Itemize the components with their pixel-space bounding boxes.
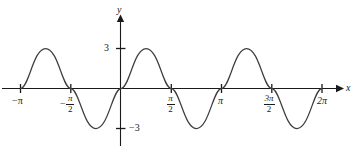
fraction-stack: π 2: [167, 94, 175, 114]
fraction-numerator: π: [167, 94, 174, 104]
fraction-stack: 3π 2: [264, 94, 275, 114]
fraction-numerator: π: [67, 94, 74, 104]
x-tick-label-pi: π: [218, 96, 223, 106]
sine-curve-plot: [0, 0, 354, 151]
fraction-stack: π 2: [66, 94, 74, 114]
fraction-denominator: 2: [167, 105, 174, 115]
y-tick-label-minus-3: −3: [129, 123, 140, 133]
x-tick-label-minus-pi-text: −π: [12, 95, 23, 106]
fraction-numerator: 3π: [264, 94, 275, 104]
y-axis-arrowhead: [117, 15, 124, 23]
x-tick-label-pi-over-2: π 2: [166, 94, 175, 114]
x-tick-label-minus-pi-over-2: − π 2: [60, 94, 74, 114]
fraction-denominator: 2: [67, 105, 74, 115]
x-tick-label-pi-text: π: [218, 95, 223, 106]
x-tick-label-2pi: 2π: [317, 96, 327, 106]
x-tick-label-3pi-over-2: 3π 2: [263, 94, 275, 114]
x-axis-label: x: [346, 83, 350, 93]
graph-figure: y x 3 −3 −π − π 2 π 2 π 3π 2 2π: [0, 0, 354, 151]
y-tick-label-3: 3: [104, 43, 109, 53]
x-tick-label-2pi-text: 2π: [317, 95, 327, 106]
fraction-denominator: 2: [266, 105, 273, 115]
x-tick-label-minus-pi: −π: [12, 96, 23, 106]
x-axis-arrowhead: [336, 85, 344, 92]
y-axis-label: y: [117, 5, 121, 15]
